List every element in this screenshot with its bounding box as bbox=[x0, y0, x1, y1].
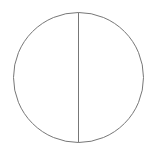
diagram-canvas bbox=[0, 0, 150, 156]
